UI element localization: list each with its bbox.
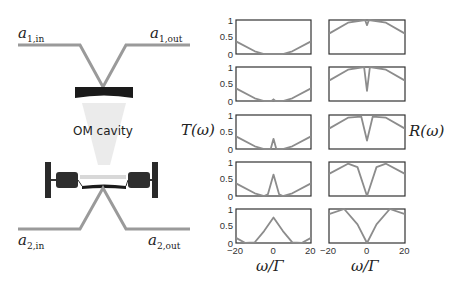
figure: a1,in a1,out a2,in a2,out OM cavity T(ω)… xyxy=(0,0,457,292)
y-tick-label: 0.5 xyxy=(220,32,233,42)
t-panel-3-frame xyxy=(236,115,311,149)
y-tick-label: 0.5 xyxy=(220,174,233,184)
t-panel-4-frame xyxy=(236,162,311,196)
x-tick-label: 20 xyxy=(399,246,410,256)
t-panel-1-curve xyxy=(236,41,311,54)
t-panel-4-curve xyxy=(236,175,311,196)
r-panel-4-curve xyxy=(329,164,405,196)
y-tick-label: 1 xyxy=(228,205,233,215)
port-a2-in: a2,in xyxy=(18,233,44,251)
t-panel-2-frame xyxy=(236,67,311,101)
y-tick-label: 1 xyxy=(228,63,233,73)
y-tick-label: 1 xyxy=(228,158,233,168)
right-clamp xyxy=(152,162,158,198)
r-axis-label: R(ω) xyxy=(409,124,444,139)
y-tick-label: 0.5 xyxy=(220,221,233,231)
upper-mirror xyxy=(75,87,133,98)
t-panel-5-curve xyxy=(236,218,311,244)
x-tick-label: 0 xyxy=(364,246,369,256)
y-tick-label: 0 xyxy=(228,50,233,60)
left-actuator xyxy=(56,172,78,188)
y-tick-label: 0 xyxy=(228,97,233,107)
left-clamp xyxy=(45,162,51,198)
r-panel-5-curve xyxy=(329,209,405,243)
x-tick-label: −20 xyxy=(320,246,336,256)
y-tick-label: 1 xyxy=(228,111,233,121)
y-tick-label: 0.5 xyxy=(220,127,233,137)
port-a2-out: a2,out xyxy=(148,233,180,251)
right-actuator xyxy=(128,172,150,188)
y-tick-label: 0 xyxy=(228,145,233,155)
t-panel-1-frame xyxy=(236,20,311,54)
cavity-label: OM cavity xyxy=(73,124,133,138)
x-tick-label: 20 xyxy=(305,246,316,256)
t-panel-5-frame xyxy=(236,209,311,243)
r-panel-3-frame xyxy=(329,115,405,149)
t-panel-2-curve xyxy=(236,88,311,101)
y-tick-label: 0 xyxy=(228,192,233,202)
port-a1-in: a1,in xyxy=(18,26,44,44)
r-x-axis-label: ω/Γ xyxy=(351,259,379,274)
plots xyxy=(236,20,405,243)
x-tick-label: 0 xyxy=(271,246,276,256)
t-axis-label: T(ω) xyxy=(181,123,215,138)
upper-waveguide xyxy=(18,45,190,87)
y-tick-label: 0.5 xyxy=(220,79,233,89)
port-a1-out: a1,out xyxy=(150,26,182,44)
r-panel-3-curve xyxy=(329,117,405,141)
x-tick-label: −20 xyxy=(227,246,243,256)
membrane-top xyxy=(80,175,126,179)
t-x-axis-label: ω/Γ xyxy=(256,259,284,274)
y-tick-label: 1 xyxy=(228,16,233,26)
r-panel-2-curve xyxy=(329,67,405,91)
lower-waveguide xyxy=(18,188,190,229)
r-panel-1-curve xyxy=(329,20,405,34)
t-panel-3-curve xyxy=(236,136,311,149)
r-panel-5-frame xyxy=(329,209,405,243)
